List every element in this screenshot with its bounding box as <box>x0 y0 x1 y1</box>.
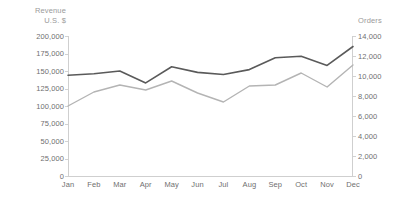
dual-axis-line-chart: Revenue U.S. $ Orders 025,00050,00075,00… <box>0 0 407 205</box>
plot-area <box>0 0 407 205</box>
series-line-orders <box>68 65 353 106</box>
